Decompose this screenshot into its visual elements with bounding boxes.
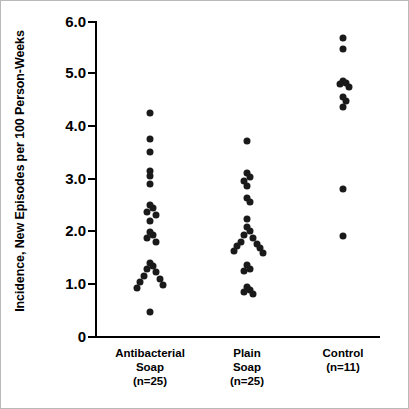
data-point <box>244 183 251 190</box>
data-point <box>250 291 257 298</box>
plot-area: 0 1.0 2.0 3.0 4.0 5.0 6.0 AntibacterialS… <box>95 21 380 338</box>
data-point <box>244 216 251 223</box>
data-point <box>147 136 154 143</box>
x-category-label-3: Control(n=11) <box>323 346 364 374</box>
data-point <box>240 268 247 275</box>
y-tick-label: 6.0 <box>65 13 86 30</box>
data-point <box>346 83 353 90</box>
data-point <box>231 247 238 254</box>
data-point <box>147 172 154 179</box>
data-point <box>340 186 347 193</box>
data-point <box>147 217 154 224</box>
data-point <box>147 309 154 316</box>
data-point <box>143 235 150 242</box>
data-point <box>247 265 254 272</box>
dot-plot-figure: Incidence, New Episodes per 100 Person-W… <box>0 0 409 409</box>
x-category-label-line: (n=11) <box>323 360 364 374</box>
y-axis-line <box>95 21 97 338</box>
x-category-label-2: PlainSoap(n=25) <box>230 346 264 388</box>
data-point <box>247 228 254 235</box>
x-category-label-line: Soap <box>115 360 185 374</box>
data-point <box>260 250 267 257</box>
y-axis-title: Incidence, New Episodes per 100 Person-W… <box>9 1 31 341</box>
x-category-label-line: Antibacterial <box>115 346 185 360</box>
y-tick-mark <box>88 21 95 23</box>
y-tick-mark <box>88 125 95 127</box>
data-point <box>247 174 254 181</box>
y-tick-label: 1.0 <box>65 275 86 292</box>
data-point <box>340 35 347 42</box>
y-tick-label: 0 <box>78 328 86 345</box>
x-category-label-line: Soap <box>230 360 264 374</box>
y-tick-mark <box>88 230 95 232</box>
data-point <box>247 198 254 205</box>
data-point <box>244 137 251 144</box>
y-tick-label: 4.0 <box>65 116 86 133</box>
y-tick-label: 3.0 <box>65 169 86 186</box>
data-point <box>147 109 154 116</box>
data-point <box>240 289 247 296</box>
data-point <box>153 212 160 219</box>
y-tick-mark <box>88 336 95 338</box>
y-tick-label: 2.0 <box>65 222 86 239</box>
data-point <box>336 81 343 88</box>
x-category-label-line: Plain <box>230 346 264 360</box>
data-point <box>159 282 166 289</box>
x-category-label-1: AntibacterialSoap(n=25) <box>115 346 185 388</box>
x-category-label-line: (n=25) <box>115 374 185 388</box>
y-tick-label: 5.0 <box>65 63 86 80</box>
data-point <box>143 208 150 215</box>
data-point <box>340 45 347 52</box>
y-tick-mark <box>88 283 95 285</box>
data-point <box>153 268 160 275</box>
data-point <box>153 238 160 245</box>
data-point <box>340 104 347 111</box>
x-category-label-line: (n=25) <box>230 374 264 388</box>
x-category-label-line: Control <box>323 346 364 360</box>
y-tick-mark <box>88 72 95 74</box>
data-point <box>147 180 154 187</box>
data-point <box>340 233 347 240</box>
data-point <box>147 149 154 156</box>
x-axis-line <box>95 336 380 338</box>
data-point <box>134 284 141 291</box>
y-tick-mark <box>88 178 95 180</box>
